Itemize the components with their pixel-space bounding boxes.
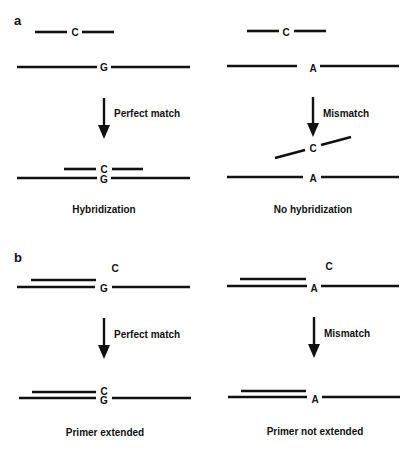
target-base: A — [310, 283, 317, 294]
panel-b-label: b — [14, 250, 22, 265]
target-strand: A — [227, 173, 399, 184]
step-label: Perfect match — [114, 329, 180, 340]
target-base: A — [311, 394, 318, 405]
probe-strand: C — [247, 27, 326, 38]
caption: Hybridization — [72, 204, 135, 215]
caption: No hybridization — [274, 204, 352, 215]
extended-duplex: C G — [19, 386, 191, 406]
target-base: G — [100, 62, 108, 73]
template-strand: A — [227, 283, 399, 294]
down-arrow-icon — [307, 97, 319, 137]
hybridized-duplex: C G — [17, 164, 190, 185]
target-strand: A — [227, 63, 399, 74]
target-base: G — [100, 395, 108, 406]
panel-a-mismatch: C A Mismatch C A No — [227, 27, 399, 215]
down-arrow-icon — [98, 98, 110, 139]
free-nucleotide: C — [325, 261, 332, 272]
panel-b-mismatch: C A Mismatch A Primer not extended — [227, 261, 400, 437]
template-strand: G — [17, 283, 190, 294]
down-arrow-icon — [98, 318, 110, 359]
panel-a-label: a — [14, 13, 22, 28]
unextended-duplex: A — [228, 391, 400, 405]
down-arrow-icon — [308, 317, 320, 358]
step-label: Mismatch — [324, 328, 370, 339]
probe-base: C — [282, 27, 289, 38]
panel-b-perfect-match: C G Perfect match C G Primer extended — [17, 263, 191, 438]
free-nucleotide: C — [111, 263, 118, 274]
panel-b: b C G Perfect match C G Primer exte — [14, 250, 400, 438]
caption: Primer extended — [66, 427, 144, 438]
target-base: A — [309, 173, 316, 184]
probe-base: C — [71, 27, 78, 38]
target-base: G — [100, 283, 108, 294]
target-strand: G — [17, 62, 190, 73]
target-base: G — [100, 174, 108, 185]
panel-a: a C G Perfect match C — [14, 13, 399, 215]
figure-canvas: a C G Perfect match C — [0, 0, 414, 450]
probe-base: C — [309, 143, 316, 154]
caption: Primer not extended — [267, 426, 364, 437]
panel-a-perfect-match: C G Perfect match C G Hybridizatio — [17, 27, 190, 215]
step-label: Perfect match — [114, 108, 180, 119]
step-label: Mismatch — [323, 108, 369, 119]
probe-strand: C — [35, 27, 114, 38]
target-base: A — [309, 63, 316, 74]
unbound-tilted-probe: C — [275, 137, 351, 158]
